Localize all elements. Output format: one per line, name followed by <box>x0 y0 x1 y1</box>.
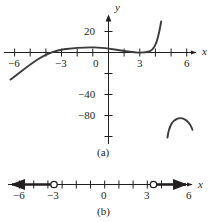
panel-b-x-axis-label: x <box>198 178 203 190</box>
panel-b-open-circle-left <box>51 181 57 187</box>
panel-b-caption: (b) <box>97 205 110 217</box>
panel-b <box>8 181 192 189</box>
panel-b-xtick-label--6: −6 <box>13 189 25 201</box>
panel-a-xtick-label-0: 0 <box>93 57 99 69</box>
panel-b-xtick-label--3: −3 <box>47 189 59 201</box>
panel-a-ytick-label--80: −80 <box>78 109 95 121</box>
panel-b-open-circle-right <box>150 181 156 187</box>
figure-root <box>0 0 216 222</box>
panel-a-caption: (a) <box>97 146 109 158</box>
panel-a-xtick-label-6: 6 <box>184 57 190 69</box>
panel-b-xtick-label-6: 6 <box>186 189 192 201</box>
panel-a-ytick-label--40: −40 <box>78 88 95 100</box>
panel-a-x-axis-label: x <box>202 45 207 57</box>
panel-a-xtick-label--6: −6 <box>8 57 20 69</box>
panel-a-xtick-label--3: −3 <box>55 57 67 69</box>
panel-b-xtick-label-3: 3 <box>144 189 150 201</box>
panel-a-y-axis-label: y <box>115 1 120 13</box>
panel-a-ytick-label-20: 20 <box>84 25 95 37</box>
panel-a-xtick-label-3: 3 <box>137 57 143 69</box>
panel-b-xtick-label-0: 0 <box>101 189 107 201</box>
panel-a-isolated-arc <box>168 118 193 137</box>
panel-a-y-arrowhead <box>106 15 112 22</box>
panel-a <box>4 15 196 145</box>
